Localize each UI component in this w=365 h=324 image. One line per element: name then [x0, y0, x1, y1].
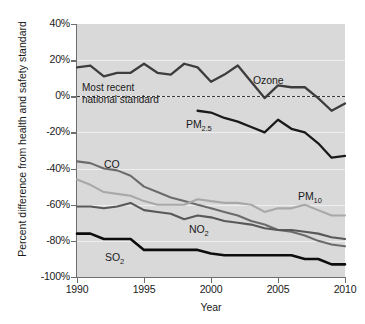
series-label-subscript: 2.5	[202, 124, 212, 133]
series-label-subscript: 2	[120, 257, 124, 266]
series-lines	[0, 0, 365, 324]
x-axis-title: Year	[77, 301, 345, 313]
series-label-subscript: 2	[205, 229, 209, 238]
y-axis-title: Percent difference from health and safet…	[16, 14, 28, 264]
series-label-no2: NO2	[189, 223, 209, 238]
series-line-pm25	[198, 111, 345, 158]
air-quality-trend-chart: 40%20%0%-20%-40%-60%-80%-100% 1990199520…	[0, 0, 365, 324]
series-label-pm10: PM10	[298, 190, 322, 205]
series-label-subscript: 10	[314, 196, 322, 205]
reference-line-annotation: Most recent national standard	[82, 82, 159, 106]
annotation-line-1: Most recent	[82, 82, 159, 94]
series-label-pm25: PM2.5	[186, 118, 212, 133]
annotation-line-2: national standard	[82, 94, 159, 106]
series-label-ozone: Ozone	[253, 74, 283, 86]
series-label-co: CO	[104, 158, 120, 170]
series-label-so2: SO2	[105, 251, 124, 266]
